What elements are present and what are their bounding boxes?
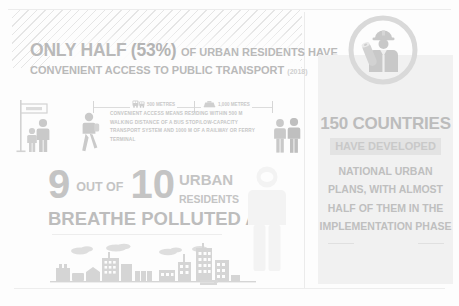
phase-rule-left — [328, 243, 354, 244]
walking-person-icon — [76, 112, 102, 152]
headline-percent: (53%) — [131, 40, 177, 60]
right-panel: 150 COUNTRIES HAVE DEVELOPED NATIONAL UR… — [306, 0, 459, 306]
transport-headline: ONLY HALF (53%) OF URBAN RESIDENTS HAVE … — [30, 42, 280, 76]
headline-only-half: ONLY HALF — [30, 40, 126, 60]
urban-planner-badge-icon — [347, 14, 419, 86]
stat-residents: RESIDENTS — [179, 193, 239, 205]
national-urban-plans-text: NATIONAL URBAN PLANS, WITH ALMOST HALF O… — [318, 162, 453, 236]
stat-urban-group: URBAN RESIDENTS — [179, 166, 239, 207]
scale-train-label: 1,000 METRES — [218, 102, 250, 107]
train-icon — [203, 100, 216, 108]
have-developed-band: HAVE DEVELOPED — [330, 138, 441, 155]
stat-out-of-group: OUT OF — [76, 166, 123, 195]
pollution-stat: 9 OUT OF 10 URBAN RESIDENTS BREATHE POLL… — [48, 166, 263, 229]
city-skyline-illustration — [50, 240, 256, 285]
stat-nine: 9 — [48, 166, 70, 203]
stat-out-of: OUT OF — [76, 180, 123, 194]
stat-urban: URBAN — [179, 171, 233, 188]
standing-people-icon — [272, 118, 302, 154]
scale-tick-end — [272, 101, 273, 113]
scale-bus-label: 500 METRES — [147, 102, 175, 107]
phase-rule-right — [418, 243, 444, 244]
headline-year: (2018) — [287, 68, 307, 75]
countries-count: 150 COUNTRIES — [318, 115, 453, 132]
bus-stop-icon — [16, 96, 68, 154]
left-panel: ONLY HALF (53%) OF URBAN RESIDENTS HAVE … — [0, 0, 304, 306]
scale-train-marker: 1,000 METRES — [201, 100, 252, 108]
stat-ten: 10 — [130, 166, 175, 203]
scale-bus-marker: 500 METRES — [130, 100, 177, 108]
headline-line2: CONVENIENT ACCESS TO PUBLIC TRANSPORT — [30, 64, 284, 76]
infographic-page: ONLY HALF (53%) OF URBAN RESIDENTS HAVE … — [0, 0, 459, 306]
stat-divider-rule — [52, 234, 222, 235]
stat-breathe: BREATHE POLLUTED AIR — [48, 210, 263, 229]
transport-caption: CONVENIENT ACCESS MEANS RESIDING WITHIN … — [110, 110, 260, 145]
bus-icon — [132, 100, 145, 108]
